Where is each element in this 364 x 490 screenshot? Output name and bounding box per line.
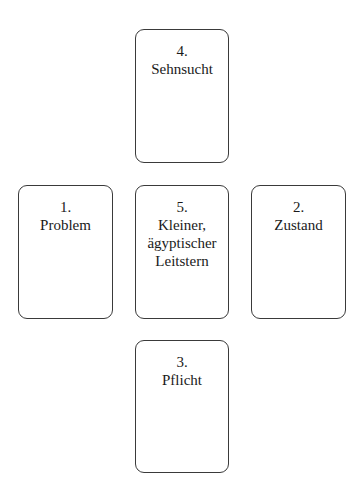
card-number: 3.: [136, 353, 228, 371]
card-label: Kleiner, ägyptischer Leitstern: [136, 216, 228, 270]
card-number: 1.: [19, 198, 112, 216]
card-4-sehnsucht: 4. Sehnsucht: [135, 29, 229, 163]
card-number: 2.: [252, 198, 345, 216]
card-5-leitstern: 5. Kleiner, ägyptischer Leitstern: [135, 185, 229, 319]
card-label: Pflicht: [136, 371, 228, 389]
card-label: Sehnsucht: [136, 60, 228, 78]
card-3-pflicht: 3. Pflicht: [135, 340, 229, 473]
card-2-zustand: 2. Zustand: [251, 185, 346, 319]
card-number: 4.: [136, 42, 228, 60]
card-1-problem: 1. Problem: [18, 185, 113, 319]
card-label: Zustand: [252, 216, 345, 234]
card-number: 5.: [136, 198, 228, 216]
card-label: Problem: [19, 216, 112, 234]
